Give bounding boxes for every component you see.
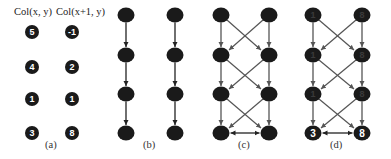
node-value-label: 3 bbox=[310, 128, 316, 139]
cross-edge bbox=[319, 20, 354, 50]
graph-node bbox=[118, 48, 135, 63]
cross-edge bbox=[229, 60, 263, 89]
cross-edge bbox=[321, 20, 356, 50]
cross-edge bbox=[227, 99, 261, 128]
panel-b-caption: (b) bbox=[143, 139, 156, 151]
node-value-label: 1 bbox=[29, 94, 34, 104]
cross-edge bbox=[229, 99, 263, 128]
graph-node bbox=[167, 126, 184, 141]
graph-node bbox=[261, 126, 278, 141]
node-value-label: 1 bbox=[310, 50, 315, 60]
panel-c: (c) bbox=[213, 8, 278, 152]
cross-edge bbox=[321, 60, 356, 89]
sorting-network-diagram: Col(x, y) Col(x+1, y) 5413-1218 (a) (b) … bbox=[0, 0, 391, 159]
node-value-label: 5 bbox=[29, 27, 34, 37]
graph-node bbox=[213, 8, 230, 23]
graph-node bbox=[213, 87, 230, 102]
cross-edge bbox=[227, 20, 261, 50]
graph-node bbox=[213, 126, 230, 141]
panel-a: Col(x, y) Col(x+1, y) 5413-1218 (a) bbox=[14, 6, 106, 151]
cross-edge bbox=[321, 99, 356, 128]
graph-node bbox=[261, 48, 278, 63]
graph-node bbox=[167, 8, 184, 23]
panel-d: 11138888 (d) bbox=[305, 8, 371, 152]
node-value-label: 1 bbox=[69, 94, 74, 104]
graph-node bbox=[167, 87, 184, 102]
panel-c-caption: (c) bbox=[238, 139, 250, 151]
column-header-left: Col(x, y) bbox=[14, 6, 52, 18]
node-value-label: 3 bbox=[29, 128, 34, 138]
node-value-label: 1 bbox=[310, 10, 315, 20]
node-value-label: 8 bbox=[359, 128, 365, 139]
graph-node bbox=[261, 8, 278, 23]
graph-node bbox=[167, 48, 184, 63]
cross-edge bbox=[319, 60, 354, 89]
panel-d-caption: (d) bbox=[330, 139, 343, 151]
cross-edge bbox=[227, 60, 261, 89]
graph-node bbox=[118, 8, 135, 23]
column-header-right: Col(x+1, y) bbox=[56, 6, 106, 18]
panel-a-caption: (a) bbox=[45, 139, 57, 151]
node-value-label: 8 bbox=[359, 10, 364, 20]
graph-node bbox=[118, 87, 135, 102]
node-value-label: 2 bbox=[69, 62, 74, 72]
cross-edge bbox=[319, 99, 354, 128]
node-value-label: 4 bbox=[29, 62, 34, 72]
node-value-label: 8 bbox=[69, 128, 74, 138]
node-value-label: 8 bbox=[359, 89, 364, 99]
node-value-label: -1 bbox=[68, 27, 76, 37]
graph-node bbox=[118, 126, 135, 141]
node-value-label: 8 bbox=[359, 50, 364, 60]
graph-node bbox=[213, 48, 230, 63]
graph-node bbox=[261, 87, 278, 102]
cross-edge bbox=[229, 20, 263, 50]
node-value-label: 1 bbox=[310, 89, 315, 99]
panel-b: (b) bbox=[118, 8, 184, 152]
